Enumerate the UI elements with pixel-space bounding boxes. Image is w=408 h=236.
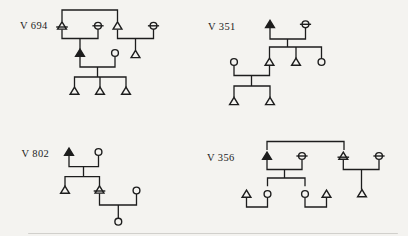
scan-artifact-line bbox=[28, 233, 398, 235]
tri-symbol bbox=[122, 87, 131, 94]
circ-symbol bbox=[115, 218, 122, 225]
tri-symbol bbox=[242, 190, 251, 197]
pedigree-v-694 bbox=[56, 10, 159, 94]
triangle-icon bbox=[292, 58, 301, 65]
triangle-icon bbox=[263, 152, 272, 159]
triangle-icon bbox=[266, 97, 275, 104]
tri-symbol bbox=[322, 190, 331, 197]
triangle-icon bbox=[358, 190, 367, 197]
triangle-icon bbox=[266, 20, 275, 27]
triangle-icon bbox=[61, 186, 70, 193]
circle-icon bbox=[115, 218, 122, 225]
circ-symbol bbox=[231, 59, 238, 66]
pedigree-canvas bbox=[0, 0, 408, 236]
kinship-line bbox=[234, 86, 270, 98]
tri-symbol bbox=[265, 58, 274, 65]
circ-bar-symbol bbox=[373, 153, 384, 160]
triangle-icon bbox=[230, 97, 239, 104]
triangle-icon bbox=[265, 58, 274, 65]
triangle-icon bbox=[58, 22, 67, 29]
tri-bar-symbol bbox=[56, 22, 68, 29]
circle-icon bbox=[302, 191, 309, 198]
circ-symbol bbox=[264, 191, 271, 198]
circ-bar-symbol bbox=[148, 22, 159, 29]
triangle-icon bbox=[339, 152, 348, 159]
circ-bar-symbol bbox=[300, 21, 311, 28]
triangle-icon bbox=[65, 148, 74, 155]
kinship-line bbox=[267, 160, 302, 170]
tri-symbol bbox=[358, 190, 367, 197]
circ-symbol bbox=[133, 187, 140, 194]
tri-symbol bbox=[292, 58, 301, 65]
circle-icon bbox=[264, 191, 271, 198]
circle-icon bbox=[318, 59, 325, 66]
pedigree-v-351 bbox=[230, 20, 325, 104]
kinship-line bbox=[62, 30, 98, 39]
triangle-icon bbox=[113, 22, 122, 29]
circle-icon bbox=[112, 50, 119, 57]
tri-symbol bbox=[230, 97, 239, 104]
kinship-line bbox=[267, 142, 344, 151]
kinship-line bbox=[62, 10, 118, 22]
kinship-line bbox=[80, 57, 115, 68]
triangle-icon bbox=[322, 190, 331, 197]
circ-bar-symbol bbox=[296, 153, 307, 160]
kinship-line bbox=[65, 177, 100, 187]
triangle-icon bbox=[122, 87, 131, 94]
triangle-icon bbox=[95, 186, 104, 193]
tri-filled-symbol bbox=[76, 49, 85, 56]
tri-symbol bbox=[266, 97, 275, 104]
tri-filled-symbol bbox=[65, 148, 74, 155]
triangle-icon bbox=[131, 50, 140, 57]
pedigree-label-v802: V 802 bbox=[22, 148, 50, 159]
tri-symbol bbox=[113, 22, 122, 29]
triangle-icon bbox=[96, 87, 105, 94]
pedigree-label-v351: V 351 bbox=[208, 21, 236, 32]
circle-icon bbox=[95, 149, 102, 156]
kinship-line bbox=[270, 28, 306, 39]
circle-icon bbox=[133, 187, 140, 194]
triangle-icon bbox=[70, 87, 79, 94]
circ-symbol bbox=[95, 149, 102, 156]
kinship-line bbox=[305, 198, 327, 207]
circle-icon bbox=[231, 59, 238, 66]
circ-symbol bbox=[112, 50, 119, 57]
circ-symbol bbox=[302, 191, 309, 198]
tri-bar-symbol bbox=[94, 186, 106, 193]
kinship-line bbox=[118, 30, 154, 39]
kinship-line bbox=[100, 194, 137, 206]
kinship-line bbox=[268, 178, 306, 186]
kinship-line bbox=[247, 198, 268, 207]
tri-symbol bbox=[96, 87, 105, 94]
circ-bar-symbol bbox=[92, 22, 103, 29]
triangle-icon bbox=[76, 49, 85, 56]
tri-symbol bbox=[61, 186, 70, 193]
tri-symbol bbox=[131, 50, 140, 57]
circ-symbol bbox=[318, 59, 325, 66]
pedigree-figure: V 694 V 351 V 802 V 356 bbox=[0, 0, 408, 236]
tri-symbol bbox=[70, 87, 79, 94]
pedigree-label-v356: V 356 bbox=[207, 152, 235, 163]
pedigree-v-356 bbox=[242, 142, 385, 208]
kinship-line bbox=[69, 156, 99, 167]
pedigree-v-802 bbox=[61, 148, 140, 225]
pedigree-label-v694: V 694 bbox=[20, 20, 48, 31]
tri-bar-symbol bbox=[338, 152, 350, 159]
triangle-icon bbox=[242, 190, 251, 197]
kinship-line bbox=[234, 66, 270, 76]
tri-filled-symbol bbox=[266, 20, 275, 27]
tri-filled-symbol bbox=[263, 152, 272, 159]
kinship-line bbox=[343, 160, 379, 170]
